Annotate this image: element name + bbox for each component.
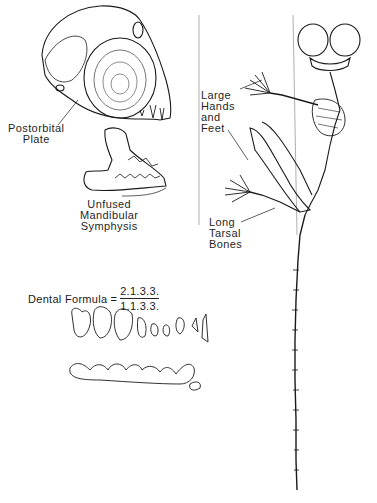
label-large-hands-and-feet: Large Hands and Feet xyxy=(201,90,235,134)
dental-formula-equals: = xyxy=(110,293,117,305)
dental-formula-fraction: 2.1.3.3. 1.1.3.3. xyxy=(120,285,159,312)
tail-drawing xyxy=(292,215,305,490)
dental-formula-label: Dental Formula xyxy=(28,293,107,305)
label-long-tarsal-bones: Long Tarsal Bones xyxy=(209,217,242,250)
skull-lateral-drawing xyxy=(42,6,171,120)
dental-formula-lower: 1.1.3.3. xyxy=(120,299,159,312)
lower-teeth-drawing xyxy=(70,364,201,391)
dental-formula-upper: 2.1.3.3. xyxy=(120,285,159,299)
skeleton-drawing xyxy=(225,24,360,215)
dental-formula: Dental Formula = 2.1.3.3. 1.1.3.3. xyxy=(28,285,159,312)
label-unfused-mandibular-symphysis: Unfused Mandibular Symphysis xyxy=(80,199,138,232)
label-postorbital-plate: Postorbital Plate xyxy=(8,123,64,145)
illustration-canvas xyxy=(0,0,377,503)
upper-teeth-drawing xyxy=(72,307,208,342)
mandible-drawing xyxy=(84,128,166,191)
